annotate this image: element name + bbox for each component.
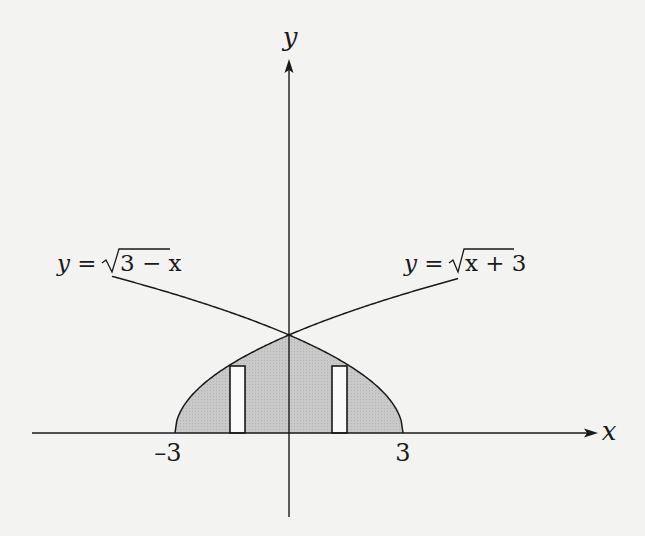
right-label-radicand: x + 3 <box>465 250 527 276</box>
left-curve-label: y = 3 − x <box>56 249 182 276</box>
right-strip <box>332 366 347 433</box>
x-axis-label: x <box>602 416 617 446</box>
left-label-radicand: 3 − x <box>120 250 182 276</box>
tick-label-neg3: –3 <box>154 439 181 467</box>
left-label-prefix: y = <box>56 250 97 276</box>
right-label-prefix: y = <box>403 250 444 276</box>
y-axis-label: y <box>282 22 298 52</box>
left-strip <box>230 366 245 433</box>
right-curve-label: y = x + 3 <box>403 249 527 276</box>
region-diagram: y x –3 3 y = 3 − x y = x + 3 <box>0 0 645 536</box>
tick-label-3: 3 <box>395 439 410 467</box>
